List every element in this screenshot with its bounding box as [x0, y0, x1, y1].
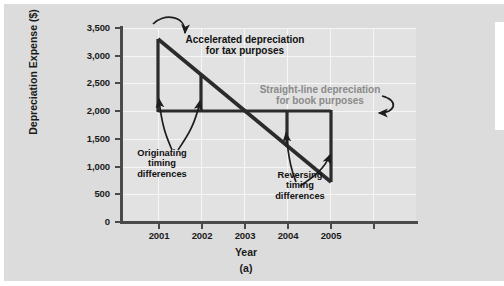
originating-arrow-2002 [178, 101, 200, 150]
annotation-originating-line3: differences [120, 169, 204, 179]
annotation-originating: Originating timing differences [120, 148, 204, 179]
annotation-reversing-line1: Reversing [258, 170, 342, 180]
annotation-reversing: Reversing timing differences [258, 170, 342, 201]
annotation-accelerated-line1: Accelerated depreciation [170, 34, 320, 45]
figure-container: 3,500 3,000 2,500 2,000 1,500 1,000 500 … [0, 0, 504, 286]
annotation-straight-line-line2: for book purposes [240, 95, 400, 106]
annotation-originating-line1: Originating [120, 148, 204, 158]
annotation-originating-line2: timing [120, 158, 204, 168]
accelerated-arrow [153, 17, 185, 33]
annotation-reversing-line3: differences [258, 191, 342, 201]
annotation-straight-line: Straight-line depreciation for book purp… [240, 84, 400, 106]
annotation-reversing-line2: timing [258, 180, 342, 190]
originating-arrow-2001 [159, 99, 172, 150]
annotation-accelerated: Accelerated depreciation for tax purpose… [170, 34, 320, 56]
annotation-accelerated-line2: for tax purposes [170, 45, 320, 56]
annotation-straight-line-line1: Straight-line depreciation [240, 84, 400, 95]
